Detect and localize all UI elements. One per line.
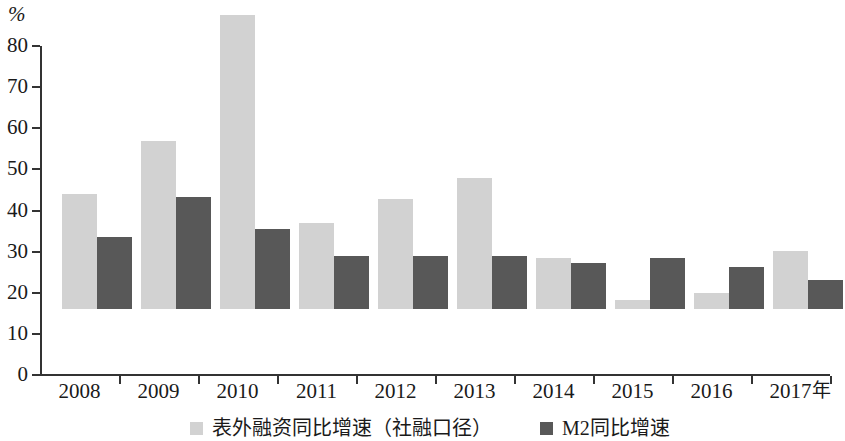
- bar-2017-series-0: [773, 251, 808, 309]
- x-axis-title: 年: [812, 381, 831, 400]
- legend-swatch-icon-0: [190, 422, 203, 435]
- x-axis-label-2011: 2011: [277, 381, 356, 402]
- bar-2010-series-0: [220, 15, 255, 309]
- x-axis-label-2012: 2012: [356, 381, 435, 402]
- bar-2013-series-1: [492, 256, 527, 309]
- x-axis-label-2016: 2016: [672, 381, 751, 402]
- x-axis-label-2010: 2010: [198, 381, 277, 402]
- bar-2009-series-0: [141, 141, 176, 309]
- bar-2016-series-0: [694, 293, 729, 309]
- bar-2008-series-0: [62, 194, 97, 309]
- bar-2015-series-1: [650, 258, 685, 309]
- legend-label-0: 表外融资同比增速（社融口径）: [212, 418, 492, 438]
- x-axis-label-2014: 2014: [514, 381, 593, 402]
- legend-swatch-icon-1: [540, 422, 553, 435]
- bar-2014-series-1: [571, 263, 606, 309]
- bar-2010-series-1: [255, 229, 290, 309]
- bar-2009-series-1: [176, 197, 211, 309]
- chart-legend: 表外融资同比增速（社融口径）M2同比增速: [0, 415, 845, 441]
- x-axis-label-2013: 2013: [435, 381, 514, 402]
- legend-item-1[interactable]: M2同比增速: [540, 418, 670, 438]
- bar-2011-series-1: [334, 256, 369, 309]
- bar-2016-series-1: [729, 267, 764, 309]
- legend-label-1: M2同比增速: [562, 418, 670, 438]
- x-axis-label-2008: 2008: [40, 381, 119, 402]
- legend-item-0[interactable]: 表外融资同比增速（社融口径）: [190, 418, 492, 438]
- bar-2015-series-0: [615, 300, 650, 309]
- bar-2011-series-0: [299, 223, 334, 309]
- bar-chart: % 01020304050607080 20082009201020112012…: [0, 0, 845, 441]
- bar-2017-series-1: [808, 280, 843, 309]
- bar-2012-series-1: [413, 256, 448, 309]
- bar-2014-series-0: [536, 258, 571, 309]
- x-axis-label-2009: 2009: [119, 381, 198, 402]
- bar-2008-series-1: [97, 237, 132, 309]
- bar-2013-series-0: [457, 178, 492, 309]
- x-axis-label-2015: 2015: [593, 381, 672, 402]
- bar-2012-series-0: [378, 199, 413, 309]
- bars-layer: [0, 0, 845, 375]
